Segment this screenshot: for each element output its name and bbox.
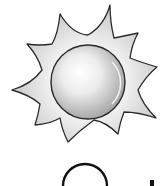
dark-bar-fragment [150,180,154,186]
circle-icon [63,164,107,186]
sun-icon [12,5,157,142]
sun-clipart [0,0,165,186]
sun-core [51,45,125,119]
partial-figure-bottom [63,164,154,186]
